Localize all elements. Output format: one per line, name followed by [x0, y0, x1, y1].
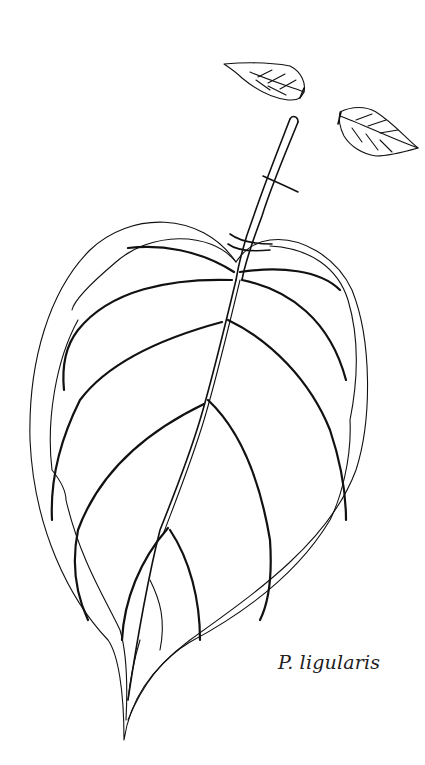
figure-caption: P. ligularis: [278, 651, 380, 673]
small-leaf-right: [338, 108, 418, 157]
small-leaf-left: [224, 63, 304, 100]
stem: [228, 117, 298, 280]
